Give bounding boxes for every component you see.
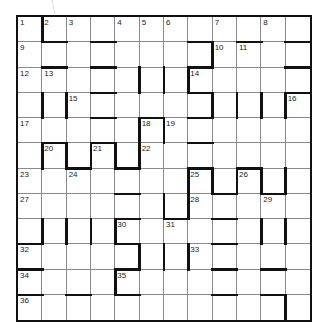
grid-cell[interactable]: 25 bbox=[188, 169, 212, 194]
grid-cell[interactable] bbox=[286, 17, 310, 42]
grid-cell[interactable] bbox=[164, 42, 188, 67]
grid-cell[interactable] bbox=[115, 93, 139, 118]
grid-cell[interactable] bbox=[115, 295, 139, 320]
grid-cell[interactable] bbox=[18, 93, 42, 118]
grid-cell[interactable] bbox=[237, 93, 261, 118]
grid-cell[interactable] bbox=[164, 270, 188, 295]
grid-cell[interactable]: 34 bbox=[18, 270, 42, 295]
grid-cell[interactable] bbox=[261, 244, 285, 269]
grid-cell[interactable]: 31 bbox=[164, 219, 188, 244]
grid-cell[interactable]: 26 bbox=[237, 169, 261, 194]
grid-cell[interactable] bbox=[91, 295, 115, 320]
grid-cell[interactable] bbox=[237, 270, 261, 295]
grid-cell[interactable] bbox=[261, 143, 285, 168]
grid-cell[interactable] bbox=[140, 68, 164, 93]
grid-cell[interactable] bbox=[67, 42, 91, 67]
grid-cell[interactable] bbox=[42, 219, 66, 244]
grid-cell[interactable] bbox=[164, 169, 188, 194]
grid-cell[interactable] bbox=[213, 219, 237, 244]
grid-cell[interactable] bbox=[213, 295, 237, 320]
grid-cell[interactable] bbox=[286, 143, 310, 168]
grid-cell[interactable] bbox=[91, 93, 115, 118]
grid-cell[interactable] bbox=[213, 270, 237, 295]
grid-cell[interactable] bbox=[67, 270, 91, 295]
grid-cell[interactable] bbox=[67, 118, 91, 143]
grid-cell[interactable]: 4 bbox=[115, 17, 139, 42]
grid-cell[interactable] bbox=[140, 93, 164, 118]
grid-cell[interactable]: 11 bbox=[237, 42, 261, 67]
grid-cell[interactable] bbox=[261, 295, 285, 320]
grid-cell[interactable] bbox=[261, 118, 285, 143]
grid-cell[interactable]: 17 bbox=[18, 118, 42, 143]
grid-cell[interactable] bbox=[42, 194, 66, 219]
grid-cell[interactable] bbox=[91, 244, 115, 269]
grid-cell[interactable] bbox=[140, 295, 164, 320]
grid-cell[interactable] bbox=[91, 194, 115, 219]
grid-cell[interactable] bbox=[286, 219, 310, 244]
grid-cell[interactable] bbox=[42, 295, 66, 320]
grid-cell[interactable] bbox=[286, 270, 310, 295]
grid-cell[interactable] bbox=[188, 17, 212, 42]
grid-cell[interactable]: 14 bbox=[188, 68, 212, 93]
grid-cell[interactable] bbox=[261, 42, 285, 67]
grid-cell[interactable]: 23 bbox=[18, 169, 42, 194]
grid-cell[interactable] bbox=[164, 194, 188, 219]
grid-cell[interactable]: 12 bbox=[18, 68, 42, 93]
grid-cell[interactable] bbox=[164, 244, 188, 269]
grid-cell[interactable] bbox=[237, 17, 261, 42]
grid-cell[interactable] bbox=[18, 143, 42, 168]
grid-cell[interactable] bbox=[213, 93, 237, 118]
grid-cell[interactable] bbox=[115, 244, 139, 269]
grid-cell[interactable] bbox=[261, 93, 285, 118]
grid-cell[interactable]: 29 bbox=[261, 194, 285, 219]
grid-cell[interactable]: 28 bbox=[188, 194, 212, 219]
grid-cell[interactable] bbox=[213, 194, 237, 219]
grid-cell[interactable] bbox=[140, 169, 164, 194]
grid-cell[interactable] bbox=[91, 42, 115, 67]
grid-cell[interactable]: 3 bbox=[67, 17, 91, 42]
grid-cell[interactable] bbox=[237, 68, 261, 93]
grid-cell[interactable] bbox=[286, 295, 310, 320]
grid-cell[interactable] bbox=[261, 219, 285, 244]
grid-cell[interactable] bbox=[91, 169, 115, 194]
grid-cell[interactable] bbox=[237, 118, 261, 143]
grid-cell[interactable] bbox=[115, 42, 139, 67]
grid-cell[interactable] bbox=[140, 42, 164, 67]
grid-cell[interactable] bbox=[213, 68, 237, 93]
grid-cell[interactable] bbox=[140, 244, 164, 269]
grid-cell[interactable] bbox=[115, 118, 139, 143]
grid-cell[interactable] bbox=[42, 169, 66, 194]
grid-cell[interactable] bbox=[91, 270, 115, 295]
grid-cell[interactable] bbox=[164, 143, 188, 168]
grid-cell[interactable]: 8 bbox=[261, 17, 285, 42]
grid-cell[interactable] bbox=[286, 118, 310, 143]
grid-cell[interactable]: 18 bbox=[140, 118, 164, 143]
grid-cell[interactable]: 27 bbox=[18, 194, 42, 219]
grid-cell[interactable] bbox=[286, 42, 310, 67]
grid-cell[interactable] bbox=[42, 270, 66, 295]
grid-cell[interactable] bbox=[91, 17, 115, 42]
grid-cell[interactable] bbox=[115, 169, 139, 194]
grid-cell[interactable] bbox=[140, 194, 164, 219]
grid-cell[interactable] bbox=[91, 118, 115, 143]
grid-cell[interactable] bbox=[261, 169, 285, 194]
grid-cell[interactable] bbox=[213, 118, 237, 143]
grid-cell[interactable]: 6 bbox=[164, 17, 188, 42]
grid-cell[interactable] bbox=[261, 68, 285, 93]
grid-cell[interactable]: 32 bbox=[18, 244, 42, 269]
grid-cell[interactable] bbox=[261, 270, 285, 295]
grid-cell[interactable] bbox=[115, 143, 139, 168]
grid-cell[interactable] bbox=[188, 42, 212, 67]
grid-cell[interactable] bbox=[237, 194, 261, 219]
grid-cell[interactable] bbox=[164, 68, 188, 93]
grid-cell[interactable] bbox=[188, 219, 212, 244]
grid-cell[interactable] bbox=[42, 118, 66, 143]
grid-cell[interactable] bbox=[91, 219, 115, 244]
grid-cell[interactable] bbox=[213, 169, 237, 194]
grid-cell[interactable]: 2 bbox=[42, 17, 66, 42]
grid-cell[interactable] bbox=[286, 244, 310, 269]
grid-cell[interactable]: 19 bbox=[164, 118, 188, 143]
grid-cell[interactable] bbox=[213, 244, 237, 269]
grid-cell[interactable] bbox=[67, 295, 91, 320]
grid-cell[interactable] bbox=[18, 219, 42, 244]
